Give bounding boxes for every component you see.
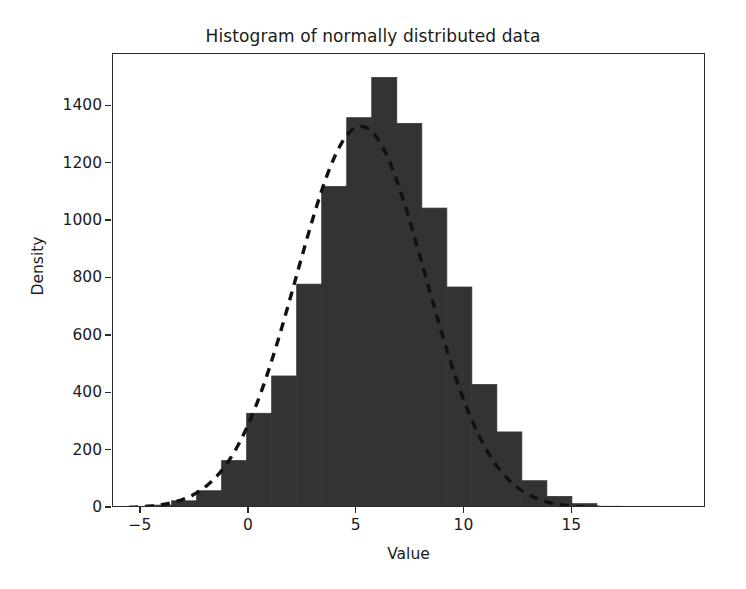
x-tick-label: 5 xyxy=(351,516,361,534)
histogram-bar xyxy=(322,187,347,507)
x-tick-label: −5 xyxy=(129,516,152,534)
x-tick-label: 0 xyxy=(243,516,253,534)
histogram-bar xyxy=(422,208,447,507)
histogram-bar xyxy=(247,413,272,507)
y-tick-mark xyxy=(105,334,111,335)
histogram-bar xyxy=(522,481,547,507)
y-tick-label: 200 xyxy=(72,441,102,459)
x-tick-mark xyxy=(355,507,356,513)
plot-area xyxy=(112,53,705,507)
x-tick-mark xyxy=(463,507,464,513)
y-tick-mark xyxy=(105,162,111,163)
histogram-bar xyxy=(297,284,322,507)
y-tick-label: 800 xyxy=(72,268,102,286)
y-tick-label: 400 xyxy=(72,383,102,401)
y-tick-mark xyxy=(105,506,111,507)
y-axis-tick-marks xyxy=(105,53,112,507)
histogram-bar xyxy=(372,78,397,507)
y-axis-tick-labels: 0200400600800100012001400 xyxy=(44,53,102,507)
y-tick-mark xyxy=(105,105,111,106)
x-tick-mark xyxy=(247,507,248,513)
x-axis-label: Value xyxy=(112,545,705,563)
histogram-bar xyxy=(347,118,372,507)
x-tick-mark xyxy=(139,507,140,513)
y-tick-label: 1000 xyxy=(63,211,102,229)
x-tick-label: 10 xyxy=(454,516,474,534)
y-tick-mark xyxy=(105,449,111,450)
y-tick-label: 0 xyxy=(92,498,102,516)
histogram-bar xyxy=(272,376,297,507)
x-tick-label: 15 xyxy=(561,516,581,534)
chart-title: Histogram of normally distributed data xyxy=(0,26,746,46)
x-axis-tick-marks xyxy=(112,507,705,514)
y-tick-mark xyxy=(105,277,111,278)
y-tick-label: 1400 xyxy=(63,96,102,114)
histogram-bar xyxy=(397,123,422,507)
y-tick-label: 1200 xyxy=(63,154,102,172)
histogram-figure: Histogram of normally distributed data D… xyxy=(0,0,746,589)
y-tick-mark xyxy=(105,219,111,220)
histogram-bar xyxy=(222,461,247,507)
y-tick-mark xyxy=(105,392,111,393)
histogram-bar xyxy=(472,385,497,507)
histogram-bars xyxy=(147,78,647,507)
histogram-bar xyxy=(447,287,472,507)
x-axis-tick-labels: −5051015 xyxy=(112,516,705,540)
y-tick-label: 600 xyxy=(72,326,102,344)
x-tick-mark xyxy=(571,507,572,513)
histogram-bar xyxy=(197,491,222,507)
plot-svg xyxy=(113,54,705,507)
